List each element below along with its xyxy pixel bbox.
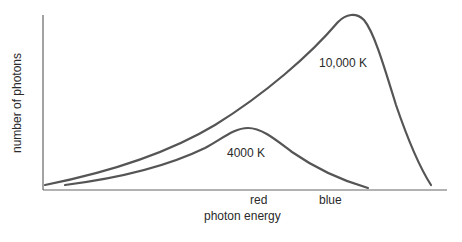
curve-4000k bbox=[65, 128, 368, 188]
blackbody-chart bbox=[0, 0, 462, 242]
curve-label-10000k: 10,000 K bbox=[319, 56, 367, 70]
x-axis-label: photon energy bbox=[204, 209, 281, 223]
x-tick-blue: blue bbox=[319, 193, 342, 207]
curve-label-4000k: 4000 K bbox=[227, 146, 265, 160]
x-tick-red: red bbox=[250, 193, 267, 207]
y-axis-label: number of photons bbox=[10, 53, 24, 153]
